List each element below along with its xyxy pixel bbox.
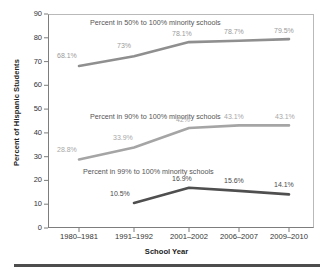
point-label-s2-2009: 43.1% [275, 113, 295, 120]
point-label-s3-2006: 15.6% [224, 177, 244, 184]
point-label-s1-2001: 78.1% [172, 30, 192, 37]
series-label-50-to-100: Percent in 50% to 100% minority schools [90, 18, 221, 27]
point-label-s1-2009: 79.5% [274, 27, 294, 34]
footer-divider [14, 264, 320, 267]
x-axis-title: School Year [0, 247, 333, 256]
point-label-s3-1991: 10.5% [110, 190, 130, 197]
y-tick-marks [44, 14, 48, 228]
point-label-s2-2006: 43.1% [224, 113, 244, 120]
series-line-99-to-100 [134, 188, 289, 203]
series-line-90-to-100 [79, 125, 289, 159]
series-label-99-to-100: Percent in 99% to 100% minority schools [83, 167, 214, 176]
point-label-s2-1980: 28.8% [57, 146, 77, 153]
point-label-s3-2009: 14.1% [274, 181, 294, 188]
series-label-90-to-100: Percent in 90% to 100% minority schools [90, 112, 221, 121]
chart-figure: Percent of Hispanic Students 90 80 70 60… [0, 0, 333, 272]
point-label-s2-2001: 42% [176, 116, 190, 123]
series-line-50-to-100 [79, 39, 289, 66]
point-label-s1-1980: 68.1% [57, 52, 77, 59]
point-label-s2-1991: 33.9% [113, 134, 133, 141]
point-label-s1-2006: 78.7% [224, 28, 244, 35]
x-tick-label-2009-2010: 2009–2010 [257, 232, 321, 241]
point-label-s1-1991: 73% [117, 42, 131, 49]
point-label-s3-2001: 16.9% [172, 175, 192, 182]
